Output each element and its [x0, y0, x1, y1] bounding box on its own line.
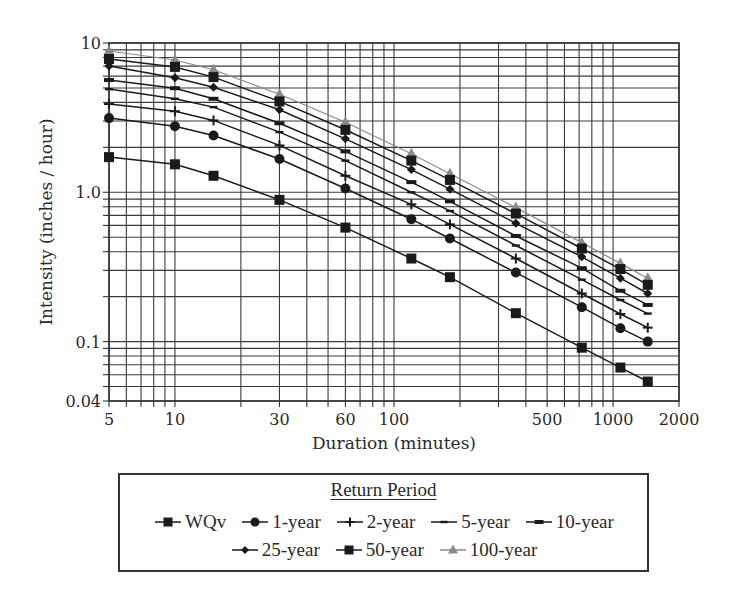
y-axis-ticks: 0.040.11.010 [65, 34, 109, 411]
legend-item-5-year: 5-year [429, 511, 510, 533]
legend-item-50-year: 50-year [334, 539, 424, 561]
legend-title-text: Return Period [330, 479, 436, 500]
triangle-marker-icon [438, 542, 468, 558]
legend-item-1-year: 1-year [240, 511, 321, 533]
legend-label: 100-year [470, 539, 538, 561]
square-marker-icon [334, 542, 364, 558]
circle-marker-icon [240, 514, 270, 530]
y-axis-title: Intensity (inches / hour) [36, 118, 56, 325]
legend-item-wqv: WQv [153, 511, 226, 533]
dash-thin-marker-icon [429, 514, 459, 530]
square-marker-icon [153, 514, 183, 530]
x-tick-label: 2000 [659, 410, 700, 429]
x-tick-label: 1000 [593, 410, 634, 429]
legend-item-2-year: 2-year [335, 511, 416, 533]
legend-label: WQv [185, 511, 226, 533]
legend-item-10-year: 10-year [524, 511, 614, 533]
legend-label: 1-year [272, 511, 321, 533]
legend-row-2: 25-year50-year100-year [120, 539, 647, 561]
legend-label: 25-year [262, 539, 320, 561]
series-wqv [104, 152, 653, 386]
chart-grid [109, 43, 679, 401]
legend-label: 10-year [556, 511, 614, 533]
legend-item-100-year: 100-year [438, 539, 538, 561]
series-5-year [105, 88, 652, 315]
series-50-year [104, 54, 653, 290]
plus-marker-icon [335, 514, 365, 530]
diamond-marker-icon [230, 542, 260, 558]
legend-label: 50-year [366, 539, 424, 561]
series-1-year [104, 113, 653, 346]
x-tick-label: 60 [335, 410, 355, 429]
x-tick-label: 500 [532, 410, 563, 429]
y-tick-label: 10 [81, 34, 101, 53]
x-tick-label: 5 [104, 410, 114, 429]
x-tick-label: 100 [379, 410, 410, 429]
legend-row-1: WQv1-year2-year5-year10-year [120, 511, 647, 533]
y-tick-label: 0.04 [65, 392, 101, 411]
x-tick-label: 30 [269, 410, 289, 429]
legend-label: 5-year [461, 511, 510, 533]
y-tick-label: 1.0 [76, 183, 101, 202]
legend-label: 2-year [367, 511, 416, 533]
legend-title: Return Period [120, 479, 647, 501]
x-tick-label: 10 [165, 410, 185, 429]
x-axis-ticks: 510306010050010002000 [104, 401, 699, 429]
idf-chart: 510306010050010002000 0.040.11.010 Durat… [0, 0, 733, 470]
legend-item-25-year: 25-year [230, 539, 320, 561]
dash-thick-marker-icon [524, 514, 554, 530]
y-tick-label: 0.1 [76, 333, 101, 352]
x-axis-title: Duration (minutes) [312, 433, 476, 453]
legend: Return Period WQv1-year2-year5-year10-ye… [118, 473, 649, 572]
